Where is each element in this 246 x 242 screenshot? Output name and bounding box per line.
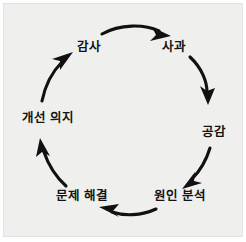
node-label-resolution: 문제 해결 <box>56 189 107 203</box>
arrow-resolution-to-improve <box>36 138 66 186</box>
node-label-apology: 사과 <box>162 40 186 54</box>
arrow-gratitude-to-apology <box>102 26 171 41</box>
arrow-empathy-to-rootcause <box>182 148 210 189</box>
cycle-diagram: 감사 사과 공감 원인 분석 문제 해결 개선 의지 <box>0 0 246 242</box>
node-label-improvement: 개선 의지 <box>22 111 73 125</box>
arrow-rootcause-to-resolution <box>99 204 156 217</box>
node-label-empathy: 공감 <box>202 125 226 139</box>
arrow-apology-to-empathy <box>190 57 215 105</box>
node-label-gratitude: 감사 <box>77 40 101 54</box>
node-label-root-cause: 원인 분석 <box>154 189 205 203</box>
diagram-panel: 감사 사과 공감 원인 분석 문제 해결 개선 의지 <box>3 3 243 237</box>
arrow-improve-to-gratitude <box>42 52 73 101</box>
